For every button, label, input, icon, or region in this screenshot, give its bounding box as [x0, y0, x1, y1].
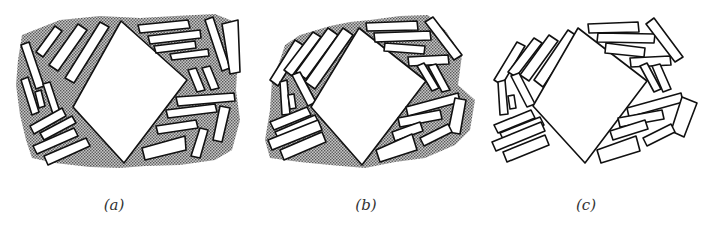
panel-a [16, 14, 240, 168]
figure: (a) (b) (c) [0, 0, 719, 226]
figure-canvas [0, 0, 719, 226]
panel-b [265, 15, 475, 168]
panel-c [492, 18, 697, 163]
panel-label-b: (b) [336, 196, 396, 214]
panel-label-a: (a) [84, 196, 144, 214]
panel-label-c: (c) [556, 196, 616, 214]
